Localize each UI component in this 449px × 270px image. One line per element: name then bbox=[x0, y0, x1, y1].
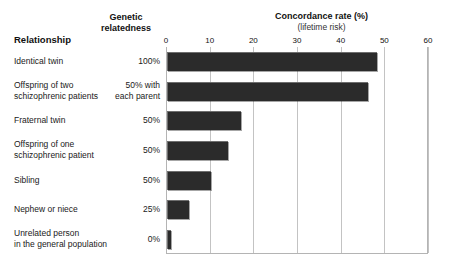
row-value-genetic-relatedness: 50% witheach parent bbox=[100, 80, 160, 102]
relatedness-line1: 50% bbox=[100, 175, 160, 186]
row-value-genetic-relatedness: 25% bbox=[100, 204, 160, 215]
bar bbox=[167, 171, 211, 190]
row-value-genetic-relatedness: 100% bbox=[100, 56, 160, 67]
genetic-header-line2: relatedness bbox=[90, 23, 162, 34]
x-tick-label: 0 bbox=[164, 36, 168, 45]
genetic-header-line1: Genetic bbox=[109, 12, 142, 22]
x-tick-label: 40 bbox=[336, 36, 345, 45]
row-value-genetic-relatedness: 0% bbox=[100, 234, 160, 245]
relatedness-line1: 50% bbox=[100, 145, 160, 156]
x-tick-label: 30 bbox=[293, 36, 302, 45]
relatedness-line1: 50% bbox=[100, 115, 160, 126]
chart-row: Fraternal twin50% bbox=[0, 106, 449, 136]
relatedness-line1: 25% bbox=[100, 204, 160, 215]
chart-row: Offspring of twoschizophrenic patients50… bbox=[0, 77, 449, 107]
row-value-genetic-relatedness: 50% bbox=[100, 175, 160, 186]
bar bbox=[167, 111, 241, 130]
x-axis: 0102030405060 bbox=[166, 36, 428, 47]
row-value-genetic-relatedness: 50% bbox=[100, 115, 160, 126]
relatedness-line1: 0% bbox=[100, 234, 160, 245]
chart-row: Offspring of oneschizophrenic patient50% bbox=[0, 136, 449, 166]
chart-row: Unrelated personin the general populatio… bbox=[0, 224, 449, 254]
bar bbox=[167, 200, 189, 219]
x-tick-label: 20 bbox=[249, 36, 258, 45]
chart-title-main: Concordance rate (%) bbox=[275, 11, 368, 21]
chart-row: Identical twin100% bbox=[0, 47, 449, 77]
concordance-rate-chart: Relationship Genetic relatedness Concord… bbox=[0, 0, 449, 270]
bar bbox=[167, 82, 368, 101]
column-header-relationship: Relationship bbox=[14, 34, 71, 45]
row-value-genetic-relatedness: 50% bbox=[100, 145, 160, 156]
chart-subtitle: (lifetime risk) bbox=[214, 22, 429, 33]
bar bbox=[167, 141, 228, 160]
x-tick-label: 60 bbox=[424, 36, 433, 45]
chart-row: Nephew or niece25% bbox=[0, 195, 449, 225]
relatedness-line1: 100% bbox=[100, 56, 160, 67]
x-tick-label: 10 bbox=[205, 36, 214, 45]
bar bbox=[167, 52, 377, 71]
bar bbox=[167, 230, 171, 249]
relatedness-line1: 50% with bbox=[100, 80, 160, 91]
relatedness-line2: each parent bbox=[100, 91, 160, 102]
x-tick-label: 50 bbox=[380, 36, 389, 45]
column-header-genetic-relatedness: Genetic relatedness bbox=[90, 12, 162, 34]
chart-title: Concordance rate (%) (lifetime risk) bbox=[214, 11, 429, 33]
chart-row: Sibling50% bbox=[0, 165, 449, 195]
